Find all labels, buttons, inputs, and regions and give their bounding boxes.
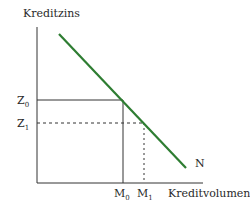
x-axis-label: Kreditvolumen: [168, 187, 250, 200]
tick-label-z0: Z0: [17, 94, 29, 109]
curve-label-n: N: [195, 157, 205, 170]
credit-demand-diagram: Kreditzins Kreditvolumen N Z0 Z1 M0 M1: [0, 0, 250, 208]
tick-label-m0: M0: [114, 187, 130, 202]
tick-label-m1: M1: [137, 187, 153, 202]
tick-label-z1: Z1: [17, 117, 29, 132]
y-axis-label: Kreditzins: [23, 7, 80, 20]
